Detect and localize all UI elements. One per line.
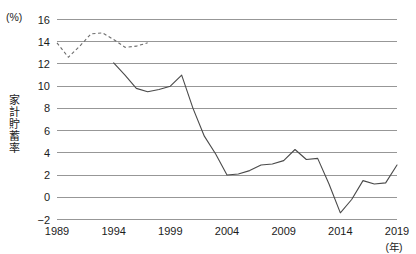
x-axis-tick-label: 2009 — [271, 225, 295, 237]
x-axis-tick-label: 1999 — [158, 225, 182, 237]
x-axis-tick-label: 2019 — [385, 225, 409, 237]
data-series-group — [57, 33, 397, 213]
x-axis-unit-label: (年) — [386, 239, 403, 254]
data-series-line — [114, 63, 397, 213]
chart-container: (%) 家計貯蓄率 1614121086420−2 19891994199920… — [0, 0, 416, 254]
x-axis-tick-label: 2004 — [215, 225, 239, 237]
x-axis-tick-label: 1994 — [101, 225, 125, 237]
chart-plot-area — [0, 0, 416, 254]
x-axis-tick-label: 2014 — [328, 225, 352, 237]
gridlines — [57, 20, 397, 220]
data-series-line — [57, 33, 148, 57]
x-axis-tick-label: 1989 — [45, 225, 69, 237]
